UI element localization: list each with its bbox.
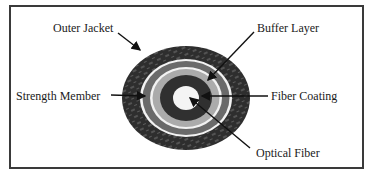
- label-strength-member: Strength Member: [16, 90, 100, 102]
- label-optical-fiber: Optical Fiber: [256, 147, 320, 159]
- optical-fiber-core: [173, 86, 199, 110]
- label-buffer-layer: Buffer Layer: [257, 22, 319, 34]
- strength-member-arrow: [111, 95, 145, 96]
- outer-jacket-arrow: [118, 33, 140, 50]
- label-outer-jacket: Outer Jacket: [53, 22, 113, 34]
- label-fiber-coating: Fiber Coating: [271, 90, 337, 102]
